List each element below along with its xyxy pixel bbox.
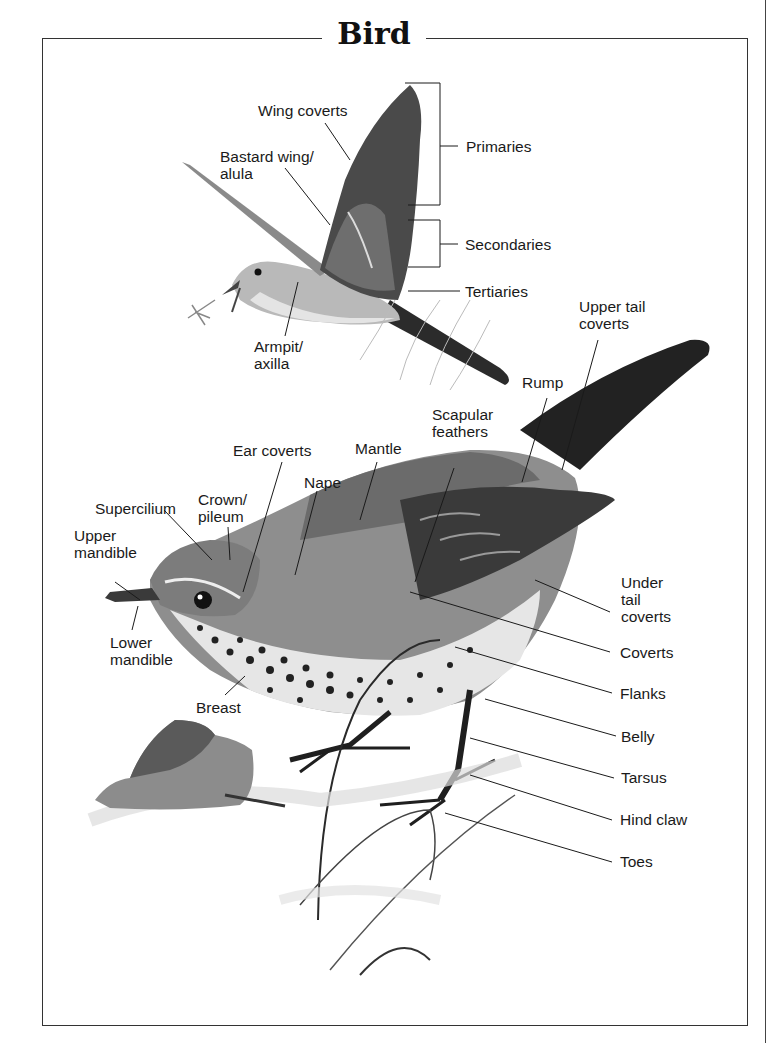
- label-nape: Nape: [304, 474, 341, 491]
- label-under-tail-coverts: Under tail coverts: [621, 574, 671, 625]
- label-toes: Toes: [620, 853, 653, 870]
- label-mantle: Mantle: [355, 440, 402, 457]
- label-hind-claw: Hind claw: [620, 811, 687, 828]
- label-upper-tail-coverts: Upper tail coverts: [579, 298, 645, 332]
- label-crown: Crown/ pileum: [198, 491, 247, 525]
- label-scapular-feathers: Scapular feathers: [432, 406, 493, 440]
- label-upper-mandible: Upper mandible: [74, 527, 137, 561]
- label-wing-coverts: Wing coverts: [258, 102, 348, 119]
- label-flanks: Flanks: [620, 685, 666, 702]
- label-lower-mandible: Lower mandible: [110, 634, 173, 668]
- label-coverts: Coverts: [620, 644, 673, 661]
- label-secondaries: Secondaries: [465, 236, 551, 253]
- label-armpit: Armpit/ axilla: [254, 338, 303, 372]
- label-tarsus: Tarsus: [621, 769, 667, 786]
- perched-bird-illustration: [90, 340, 710, 975]
- label-bastard-wing: Bastard wing/ alula: [220, 148, 314, 182]
- label-ear-coverts: Ear coverts: [233, 442, 311, 459]
- bird-illustration: [0, 0, 772, 1043]
- label-breast: Breast: [196, 699, 241, 716]
- flying-bird-illustration: [182, 85, 509, 390]
- label-belly: Belly: [621, 728, 655, 745]
- label-tertiaries: Tertiaries: [465, 283, 528, 300]
- label-rump: Rump: [522, 374, 563, 391]
- label-primaries: Primaries: [466, 138, 531, 155]
- label-supercilium: Supercilium: [95, 500, 176, 517]
